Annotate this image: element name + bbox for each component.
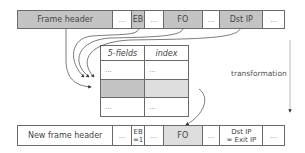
arrow-index-to-new-fo [186, 89, 205, 125]
arrow-eb-to-table [74, 29, 139, 77]
arrow-frame-header-to-table [66, 29, 91, 87]
arrow-dst-ip-to-table [87, 29, 240, 77]
arrow-fo-to-table [79, 29, 183, 77]
connector-arrows [0, 0, 305, 153]
